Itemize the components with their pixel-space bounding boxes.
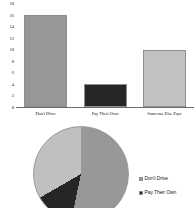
bar-plot-area: 181614121086420 (16, 4, 194, 108)
legend-label: Pay Their Own (145, 190, 177, 195)
x-axis-label-2: Pay Their Own (75, 112, 134, 117)
y-axis-tick-6: 6 (12, 71, 14, 76)
x-axis-label-3: Someone Else Pays (135, 112, 194, 117)
pie-chart (0, 122, 196, 208)
bar-rect (24, 15, 67, 107)
y-axis-tick-4: 4 (12, 83, 14, 88)
y-axis-tick-12: 12 (10, 36, 14, 41)
x-axis-line (16, 107, 194, 108)
y-axis-tick-10: 10 (10, 48, 14, 53)
bar-chart: 181614121086420 Don't DrivePay Their Own… (0, 0, 196, 124)
bar-1[interactable] (24, 3, 67, 107)
bar-3[interactable] (143, 3, 186, 107)
bar-rect (143, 50, 186, 108)
legend-swatch-icon (139, 191, 143, 195)
legend-label: Don't Drive (145, 176, 168, 181)
x-axis-label-1: Don't Drive (16, 112, 75, 117)
y-axis-tick-14: 14 (10, 25, 14, 30)
legend-entry-1[interactable]: Don't Drive (139, 176, 196, 181)
bar-rect (84, 84, 127, 107)
chart-figure: 181614121086420 Don't DrivePay Their Own… (0, 0, 196, 208)
y-axis-tick-0: 0 (12, 106, 14, 111)
y-axis-tick-8: 8 (12, 59, 14, 64)
bar-2[interactable] (84, 3, 127, 107)
pie-legend: Don't DrivePay Their Own (139, 176, 196, 195)
y-axis-tick-16: 16 (10, 13, 14, 18)
legend-swatch-icon (139, 177, 143, 181)
y-axis-tick-18: 18 (10, 2, 14, 7)
pie-slices (33, 126, 129, 208)
legend-entry-2[interactable]: Pay Their Own (139, 190, 196, 195)
y-axis-tick-2: 2 (12, 94, 14, 99)
